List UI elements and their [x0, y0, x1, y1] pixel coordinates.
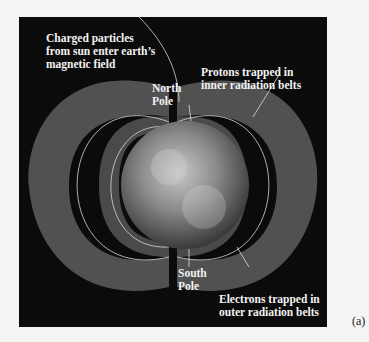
electrons-label: Electrons trapped in outer radiation bel… — [219, 293, 320, 319]
protons-label: Protons trapped in inner radiation belts — [201, 66, 301, 92]
earth-globe — [121, 121, 249, 249]
diagram-panel: Charged particles from sun enter earth’s… — [19, 17, 327, 327]
north-pole-label: North Pole — [152, 82, 181, 108]
charged-particles-label: Charged particles from sun enter earth’s… — [46, 32, 155, 71]
figure-label: (a) — [352, 314, 365, 329]
south-pole-label: South Pole — [178, 267, 207, 293]
